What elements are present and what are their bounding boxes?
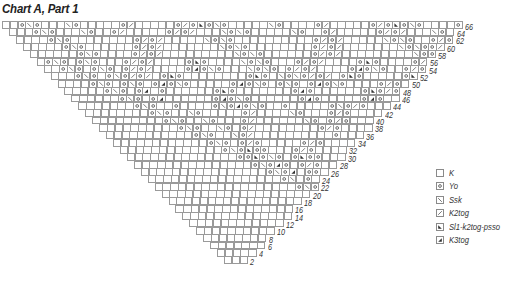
chart-cell (257, 242, 265, 250)
row-number-label: 26 (331, 169, 339, 179)
chart-cell (320, 168, 328, 176)
row-number-label: 62 (456, 36, 464, 46)
circle-icon (436, 182, 444, 190)
backslash-icon (436, 196, 444, 204)
row-number-label: 22 (321, 183, 329, 193)
chart-cell (409, 72, 417, 80)
row-number-label: 20 (313, 191, 321, 201)
legend-item-yo: Yo (436, 180, 509, 194)
row-number-label: 42 (385, 110, 393, 120)
legend-item-ssk: Ssk (436, 193, 509, 207)
chart-cell (311, 183, 319, 191)
row-number-label: 50 (412, 80, 420, 90)
chart-cell (293, 197, 301, 205)
chart-cell (374, 109, 382, 117)
row-number-label: 14 (295, 213, 303, 223)
blank-square-icon (436, 169, 444, 177)
chart-cell (356, 131, 364, 139)
row-number-label: 46 (402, 95, 410, 105)
chart-cell (383, 102, 391, 110)
row-number-label: 44 (393, 102, 401, 112)
row-number-label: 18 (304, 198, 312, 208)
legend-label: Ssk (449, 195, 462, 205)
row-number-label: 6 (268, 242, 272, 252)
legend-item-k3tog: K3tog (436, 234, 509, 248)
right-triangle-icon (436, 236, 444, 244)
row-number-label: 58 (438, 51, 446, 61)
row-number-label: 12 (286, 220, 294, 230)
chart-cell (302, 190, 310, 198)
chart-cell (428, 50, 436, 58)
legend: K Yo Ssk K2tog Sl1-k2tog-psso K3tog (436, 166, 509, 247)
chart-cell (337, 153, 345, 161)
chart-cell (364, 124, 372, 132)
legend-label: Yo (449, 181, 458, 191)
chart-cell (329, 161, 337, 169)
chart-cell (418, 65, 426, 73)
row-number-label: 34 (358, 139, 366, 149)
row-number-label: 52 (420, 73, 428, 83)
row-number-label: 38 (375, 124, 383, 134)
legend-item-knit: K (436, 166, 509, 180)
chart-cell (454, 21, 462, 29)
row-number-label: 60 (447, 44, 455, 54)
row-number-label: 10 (277, 227, 285, 237)
chart-cell (401, 80, 409, 88)
row-number-label: 2 (250, 257, 254, 267)
legend-label: K2tog (449, 208, 469, 218)
chart-cell (436, 43, 444, 51)
chart-cell (347, 139, 355, 147)
row-number-label: 36 (366, 132, 374, 142)
legend-label: K (449, 168, 454, 178)
row-number-label: 4 (259, 249, 263, 259)
chart-cell (240, 256, 248, 264)
chart-cell (284, 212, 292, 220)
legend-item-k2tog: K2tog (436, 207, 509, 221)
legend-item-sk2p: Sl1-k2tog-psso (436, 220, 509, 234)
left-triangle-icon (436, 223, 444, 231)
row-number-label: 54 (429, 66, 437, 76)
row-number-label: 66 (465, 22, 473, 32)
chart-cell (445, 36, 453, 44)
row-number-label: 28 (340, 161, 348, 171)
row-number-label: 30 (348, 154, 356, 164)
chart-cell (248, 249, 256, 257)
legend-label: K3tog (449, 235, 469, 245)
chart-cell (391, 95, 399, 103)
chart-cell (275, 219, 283, 227)
chart-cell (266, 227, 274, 235)
legend-label: Sl1-k2tog-psso (449, 222, 500, 232)
slash-icon (436, 209, 444, 217)
